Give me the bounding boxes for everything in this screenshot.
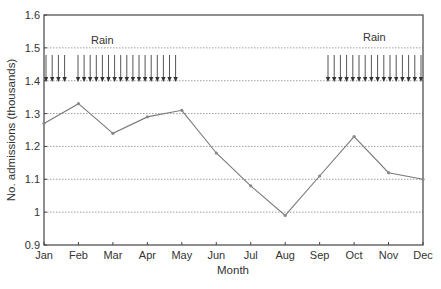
- y-tick-label: 1: [34, 206, 40, 218]
- x-tick-label: Nov: [379, 249, 399, 261]
- y-axis-title: No. admissions (thousands): [5, 59, 17, 202]
- rain-arrow-head: [167, 77, 171, 82]
- rain-arrow-head: [363, 77, 367, 82]
- y-tick-label: 1.5: [25, 42, 40, 54]
- rain-label-left: Rain: [91, 34, 114, 46]
- y-tick-label: 1.3: [25, 108, 40, 120]
- rain-arrow-head: [137, 77, 141, 82]
- data-points: [42, 102, 424, 217]
- rain-arrow-head: [125, 77, 129, 82]
- data-point: [249, 184, 252, 187]
- x-tick-label: May: [171, 249, 192, 261]
- plot-frame: [44, 15, 423, 245]
- x-tick-label: Sep: [310, 249, 330, 261]
- rain-arrow-head: [161, 77, 165, 82]
- rain-arrow-head: [82, 77, 86, 82]
- x-tick-label: Jul: [244, 249, 258, 261]
- rain-arrow-head: [344, 77, 348, 82]
- x-tick-label: Dec: [413, 249, 433, 261]
- rain-arrow-head: [106, 77, 110, 82]
- y-tick-label: 0.9: [25, 239, 40, 251]
- data-point: [421, 178, 424, 181]
- data-point: [180, 109, 183, 112]
- rain-arrow-head: [62, 77, 66, 82]
- x-tick-label: Aug: [275, 249, 295, 261]
- rain-arrow-head: [406, 77, 410, 82]
- rain-arrow-head: [88, 77, 92, 82]
- data-point: [77, 102, 80, 105]
- admissions-line: [44, 104, 423, 216]
- data-point: [284, 214, 287, 217]
- data-point: [146, 115, 149, 118]
- rain-arrow-head: [119, 77, 123, 82]
- rain-arrow-head: [112, 77, 116, 82]
- data-point: [352, 135, 355, 138]
- line-chart: JanFebMarAprMayJunJulAugSepOctNovDec 0.9…: [0, 0, 441, 289]
- gridlines: [44, 48, 423, 212]
- data-point: [387, 171, 390, 174]
- rain-arrow-head: [155, 77, 159, 82]
- rain-arrow-head: [76, 77, 80, 82]
- rain-arrow-head: [413, 77, 417, 82]
- rain-arrow-head: [149, 77, 153, 82]
- y-tick-label: 1.1: [25, 173, 40, 185]
- rain-arrow-head: [369, 77, 373, 82]
- rain-arrow-head: [357, 77, 361, 82]
- rain-arrow-head: [375, 77, 379, 82]
- y-tick-label: 1.4: [25, 75, 40, 87]
- x-tick-label: Apr: [139, 249, 156, 261]
- data-point: [215, 151, 218, 154]
- rain-arrow-head: [94, 77, 98, 82]
- data-point: [111, 132, 114, 135]
- x-axis-title: Month: [217, 264, 249, 276]
- rain-arrow-head: [143, 77, 147, 82]
- rain-arrow-head: [173, 77, 177, 82]
- x-tick-label: Feb: [69, 249, 88, 261]
- rain-arrow-head: [56, 77, 60, 82]
- rain-arrow-head: [388, 77, 392, 82]
- x-tick-label: Oct: [346, 249, 363, 261]
- rain-arrow-head: [326, 77, 330, 82]
- rain-arrow-head: [50, 77, 54, 82]
- rain-arrows: [44, 55, 423, 82]
- rain-arrow-head: [338, 77, 342, 82]
- rain-arrow-head: [351, 77, 355, 82]
- rain-arrow-head: [332, 77, 336, 82]
- data-point: [42, 122, 45, 125]
- y-tick-label: 1.2: [25, 140, 40, 152]
- y-tick-label: 1.6: [25, 9, 40, 21]
- rain-arrow-head: [382, 77, 386, 82]
- rain-label-right: Rain: [363, 31, 386, 43]
- x-tick-label: Jun: [207, 249, 225, 261]
- rain-arrow-head: [400, 77, 404, 82]
- x-tick-label: Mar: [103, 249, 122, 261]
- rain-arrow-head: [394, 77, 398, 82]
- data-point: [318, 174, 321, 177]
- rain-arrow-head: [100, 77, 104, 82]
- rain-arrow-head: [131, 77, 135, 82]
